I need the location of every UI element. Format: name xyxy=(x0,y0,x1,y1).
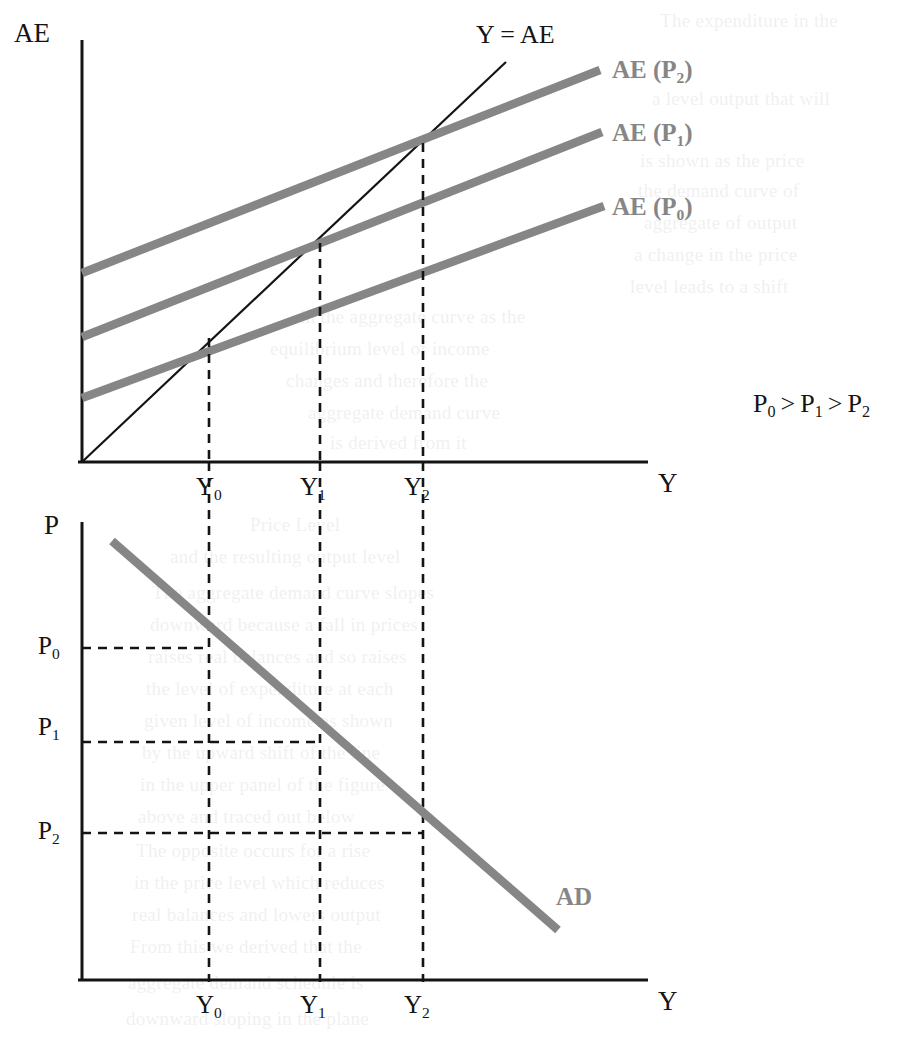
po-base-0: P xyxy=(753,389,767,418)
ae-p1-close: ) xyxy=(684,119,692,146)
bottom-xtick-y0: Y0 xyxy=(196,992,222,1017)
ae-curve-p2-label: AE (P2) xyxy=(612,57,693,82)
po-base-2: P xyxy=(800,389,814,418)
top-xtick-y1-base: Y xyxy=(300,473,318,500)
top-xtick-y0-base: Y xyxy=(196,473,214,500)
top-xtick-y1: Y1 xyxy=(300,474,326,499)
bottom-xtick-y0-subscript: 0 xyxy=(214,1004,222,1021)
po-sub-0: 0 xyxy=(767,403,775,420)
ae-curve-p0-label: AE (P0) xyxy=(612,194,693,219)
bottom-ytick-p2: P2 xyxy=(38,818,60,843)
ad-curve xyxy=(112,541,558,930)
po-sub-2: 1 xyxy=(815,403,823,420)
bottom-ytick-p1-base: P xyxy=(38,713,52,740)
ad-curve-label: AD xyxy=(556,884,592,909)
bottom-xtick-y1-subscript: 1 xyxy=(318,1004,326,1021)
top-y-axis-label: AE xyxy=(14,20,50,47)
price-ordering-annotation: P0>P1>P2 xyxy=(753,391,870,417)
bottom-xtick-y2-base: Y xyxy=(404,991,422,1018)
forty-five-degree-line-label: Y = AE xyxy=(476,22,555,48)
bottom-ytick-p0: P0 xyxy=(38,633,60,658)
bottom-ytick-p0-base: P xyxy=(38,632,52,659)
top-xtick-y2: Y2 xyxy=(404,474,430,499)
po-op-3: > xyxy=(828,389,843,418)
top-x-axis-label: Y xyxy=(658,470,678,497)
top-xtick-y0: Y0 xyxy=(196,474,222,499)
bottom-ytick-p2-base: P xyxy=(38,817,52,844)
figure-vector-layer xyxy=(0,0,916,1045)
top-xtick-y1-subscript: 1 xyxy=(318,486,326,503)
economics-figure: The expenditure in the a level output th… xyxy=(0,0,916,1045)
bottom-xtick-y2: Y2 xyxy=(404,992,430,1017)
bottom-ytick-p1-subscript: 1 xyxy=(52,726,60,743)
ae-p0-close: ) xyxy=(684,193,692,220)
ae-p1-subscript: 1 xyxy=(677,132,685,149)
bottom-x-axis-label: Y xyxy=(658,988,678,1015)
bottom-ytick-p0-subscript: 0 xyxy=(52,645,60,662)
top-panel-axes xyxy=(78,40,648,463)
bottom-xtick-y1-base: Y xyxy=(300,991,318,1018)
po-sub-4: 2 xyxy=(862,403,870,420)
ae-p2-subscript: 2 xyxy=(677,69,685,86)
bottom-ytick-p1: P1 xyxy=(38,714,60,739)
top-xtick-y2-subscript: 2 xyxy=(422,486,430,503)
ae-p0-text: AE (P xyxy=(612,193,677,220)
ae-p2-text: AE (P xyxy=(612,56,677,83)
bottom-xtick-y1: Y1 xyxy=(300,992,326,1017)
top-xtick-y0-subscript: 0 xyxy=(214,486,222,503)
bottom-ytick-p2-subscript: 2 xyxy=(52,830,60,847)
bottom-xtick-y0-base: Y xyxy=(196,991,214,1018)
po-op-1: > xyxy=(781,389,796,418)
ae-p1-text: AE (P xyxy=(612,119,677,146)
ae-p2-close: ) xyxy=(684,56,692,83)
po-base-4: P xyxy=(847,389,861,418)
ae-curve-p1-label: AE (P1) xyxy=(612,120,693,145)
ae-curve-p2 xyxy=(82,70,600,273)
bottom-y-axis-label: P xyxy=(44,512,59,539)
bottom-xtick-y2-subscript: 2 xyxy=(422,1004,430,1021)
ae-p0-subscript: 0 xyxy=(677,206,685,223)
top-xtick-y2-base: Y xyxy=(404,473,422,500)
